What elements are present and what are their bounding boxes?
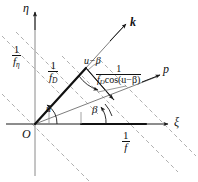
diagram-canvas [0, 0, 198, 182]
label-inv-fD-cos: 1 fDcos(u−β) [96, 64, 141, 87]
origin-label: O [22, 128, 31, 140]
inv-fD-cos-denominator: fDcos(u−β) [96, 74, 141, 86]
xi-axis-label: ξ [174, 116, 179, 128]
inv-f-numerator: 1 [122, 130, 130, 141]
k-vector-label: k [130, 16, 136, 28]
p-vector-label: p [163, 63, 169, 75]
label-inv-f-D: 1 fD [48, 60, 58, 84]
arc-beta [105, 104, 112, 116]
label-inv-f-eta: 1 fη [12, 44, 21, 68]
inv-f-D-numerator: 1 [48, 60, 58, 71]
k-ray-arrow [110, 24, 126, 41]
inv-f-eta-denominator: fη [12, 55, 21, 68]
inv-fD-cos-numerator: 1 [96, 64, 141, 74]
inv-f-D-denominator: fD [48, 71, 58, 84]
inv-f-eta-numerator: 1 [12, 44, 21, 55]
arc-beta-2 [101, 107, 106, 124]
p-ray-arrow [142, 75, 160, 82]
inv-f-denominator: f [122, 141, 130, 154]
angle-beta-label: β [92, 104, 97, 115]
label-inv-f: 1 f [122, 130, 130, 154]
vector-diagram-figure: η ξ O k p u β u−β 1 fη 1 fD 1 f 1 fDco [0, 0, 198, 182]
eta-axis-label: η [23, 2, 29, 14]
angle-u-label: u [46, 104, 51, 114]
